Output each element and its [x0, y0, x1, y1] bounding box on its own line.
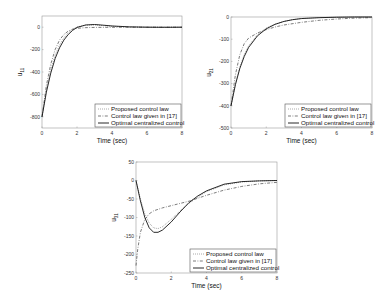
subplot-3: 02468500-50-100-150-200-250Time (sec)u31…: [110, 159, 279, 290]
legend-entry: Optimal centralized control: [111, 119, 184, 126]
x-tick-label: 6: [240, 275, 243, 281]
legend-entry: Proposed control law: [301, 105, 359, 112]
y-tick-label: -800: [30, 114, 40, 120]
y-tick-label: -250: [124, 270, 134, 276]
y-tick-label: 0: [37, 24, 40, 30]
y-tick-label: -50: [127, 196, 134, 202]
x-axis-label: Time (sec): [286, 137, 316, 145]
x-tick-label: 8: [371, 130, 374, 136]
x-tick-label: 4: [205, 275, 208, 281]
y-tick-label: -150: [124, 233, 134, 239]
y-tick-label: -400: [219, 103, 229, 109]
x-tick-label: 2: [76, 130, 79, 136]
y-tick-label: -300: [219, 80, 229, 86]
x-axis-label: Time (sec): [97, 137, 127, 145]
x-tick-label: 4: [111, 130, 114, 136]
legend: Proposed control lawControl law given in…: [95, 104, 184, 127]
x-tick-label: 2: [265, 130, 268, 136]
x-tick-label: 4: [300, 130, 303, 136]
y-tick-label: 0: [226, 14, 229, 20]
y-tick-label: -100: [124, 214, 134, 220]
x-tick-label: 6: [146, 130, 149, 136]
legend-entry: Control law given in [17]: [111, 112, 177, 119]
legend-entry: Optimal centralized control: [206, 264, 279, 271]
y-tick-label: 0: [131, 177, 134, 183]
legend-entry: Proposed control law: [111, 105, 169, 112]
legend-entry: Proposed control law: [206, 250, 264, 257]
legend: Proposed control lawControl law given in…: [285, 104, 374, 127]
subplot-2: 024680-100-200-300-400-500Time (sec)u21P…: [205, 14, 374, 145]
y-tick-label: -400: [30, 69, 40, 75]
legend: Proposed control lawControl law given in…: [190, 249, 279, 272]
x-tick-label: 2: [170, 275, 173, 281]
y-tick-label: -500: [219, 125, 229, 131]
x-tick-label: 8: [181, 130, 184, 136]
y-tick-label: -600: [30, 91, 40, 97]
y-tick-label: -200: [124, 251, 134, 257]
y-tick-label: -200: [219, 58, 229, 64]
y-axis-label: u21: [205, 68, 214, 77]
figure: 024680-200-400-600-800Time (sec)u11Propo…: [0, 0, 386, 297]
y-tick-label: 50: [128, 159, 134, 165]
y-axis-label: u11: [16, 67, 25, 76]
y-axis-label: u31: [110, 213, 119, 222]
x-tick-label: 8: [276, 275, 279, 281]
subplot-1: 024680-200-400-600-800Time (sec)u11Propo…: [16, 16, 184, 145]
x-tick-label: 0: [135, 275, 138, 281]
legend-entry: Control law given in [17]: [301, 112, 367, 119]
x-tick-label: 0: [230, 130, 233, 136]
y-tick-label: -100: [219, 36, 229, 42]
legend-entry: Optimal centralized control: [301, 119, 374, 126]
x-axis-label: Time (sec): [191, 282, 221, 290]
x-tick-label: 6: [335, 130, 338, 136]
x-tick-label: 0: [41, 130, 44, 136]
y-tick-label: -200: [30, 46, 40, 52]
legend-entry: Control law given in [17]: [206, 257, 272, 264]
